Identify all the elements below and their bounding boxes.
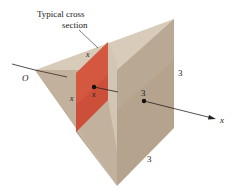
- cross-section-center-point: [92, 85, 96, 89]
- base-center-point: [142, 99, 146, 103]
- cross-section-left-label: x: [69, 94, 74, 103]
- pyramid-diagram: Typical cross section O x x x 3 3 3 x: [0, 0, 235, 193]
- base-right-side-label: 3: [178, 68, 183, 78]
- axis-label: x: [219, 115, 224, 125]
- cross-section-center-label: x: [91, 90, 96, 99]
- callout-leader: [79, 30, 98, 48]
- x-axis-arrowhead-icon: [208, 115, 216, 120]
- x-axis-left: [12, 64, 35, 70]
- cross-section-top-label: x: [85, 50, 90, 59]
- base-center-label: 3: [141, 88, 146, 98]
- origin-label: O: [22, 73, 29, 83]
- base-bottom-side-label: 3: [147, 154, 152, 164]
- callout-line-1: Typical cross: [37, 9, 85, 19]
- callout-line-2: section: [62, 20, 88, 30]
